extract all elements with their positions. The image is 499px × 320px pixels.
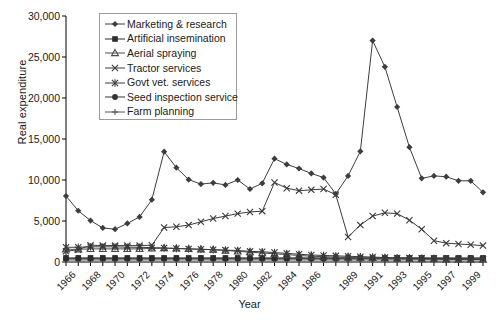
star-marker-icon: [104, 76, 126, 90]
square-marker-icon: [104, 32, 126, 46]
series-line: [63, 179, 486, 254]
chart-container: Real expenditure Year 05,00010,00015,000…: [0, 0, 499, 320]
legend-item: Tractor services: [104, 61, 232, 76]
legend-item: Seed inspection service: [104, 90, 232, 105]
legend-item: Artificial insemination: [104, 32, 232, 47]
x-marker-icon: [104, 61, 126, 75]
legend-item: Farm planning: [104, 105, 232, 120]
circle-marker-icon: [104, 90, 126, 104]
legend-label: Artificial insemination: [126, 33, 226, 44]
plus-marker-icon: [104, 105, 126, 119]
legend-label: Aerial spraying: [126, 48, 196, 59]
legend-label: Govt vet. services: [126, 77, 210, 88]
legend-item: Govt vet. services: [104, 75, 232, 90]
legend: Marketing & researchArtificial inseminat…: [99, 13, 237, 120]
triangle-marker-icon: [104, 46, 126, 60]
diamond-marker-icon: [104, 17, 126, 31]
legend-label: Farm planning: [126, 106, 194, 117]
legend-label: Seed inspection service: [126, 92, 238, 103]
legend-item: Marketing & research: [104, 17, 232, 32]
legend-label: Tractor services: [126, 63, 201, 74]
legend-label: Marketing & research: [126, 19, 227, 30]
legend-item: Aerial spraying: [104, 46, 232, 61]
